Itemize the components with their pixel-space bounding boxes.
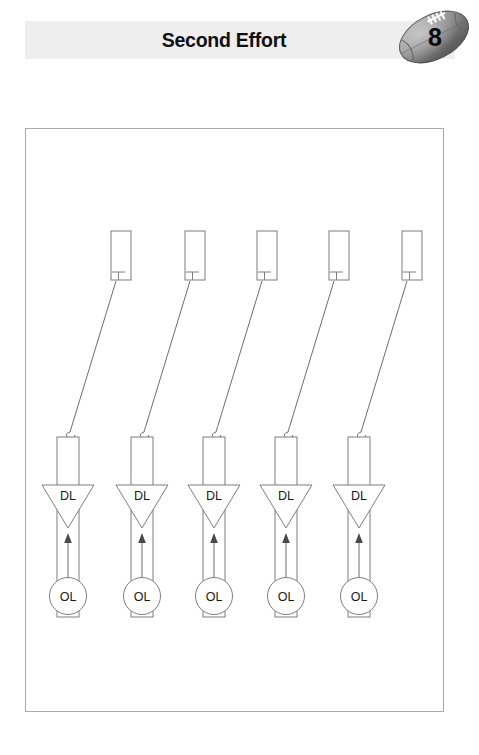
ol-label: OL <box>206 590 223 604</box>
blocking-pad <box>185 231 205 280</box>
drill-unit: DL OL <box>260 231 349 617</box>
ol-marker: OL <box>268 578 305 615</box>
football-drill-diagram: DL OL <box>25 128 444 712</box>
dl-label: DL <box>60 489 76 503</box>
blocking-pad <box>257 231 277 280</box>
drill-unit: DL OL <box>42 231 131 617</box>
dl-label: DL <box>134 489 150 503</box>
dl-label: DL <box>206 489 222 503</box>
dl-marker: DL <box>116 485 168 528</box>
blocking-pad <box>329 231 349 280</box>
drill-unit: DL OL <box>116 231 205 617</box>
drill-unit: DL OL <box>188 231 277 617</box>
ol-label: OL <box>60 590 77 604</box>
ol-marker: OL <box>124 578 161 615</box>
drill-unit: DL OL <box>333 231 422 617</box>
page-header: Second Effort <box>0 0 479 86</box>
ol-label: OL <box>351 590 368 604</box>
ol-label: OL <box>134 590 151 604</box>
dl-marker: DL <box>260 485 312 528</box>
dl-marker: DL <box>42 485 94 528</box>
blocking-pad <box>402 231 422 280</box>
dl-marker: DL <box>188 485 240 528</box>
ol-marker: OL <box>50 578 87 615</box>
dl-label: DL <box>351 489 367 503</box>
page-title: Second Effort <box>39 25 409 55</box>
dl-label: DL <box>278 489 294 503</box>
dl-marker: DL <box>333 485 385 528</box>
blocking-pad <box>111 231 131 280</box>
ol-marker: OL <box>341 578 378 615</box>
page-number: 8 <box>392 2 476 72</box>
ol-marker: OL <box>196 578 233 615</box>
ol-label: OL <box>278 590 295 604</box>
